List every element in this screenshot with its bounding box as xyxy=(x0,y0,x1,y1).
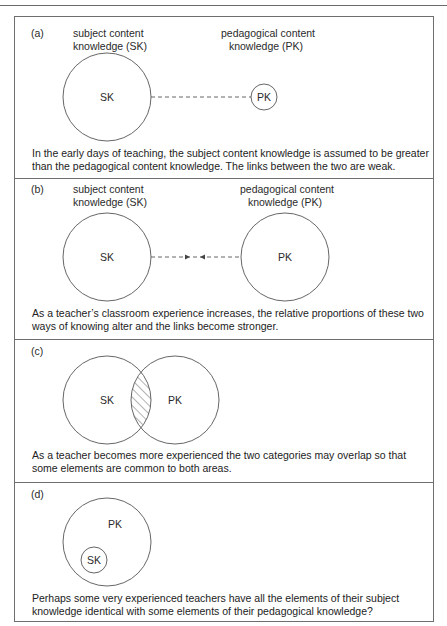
panel-d: (d) PK SK Perhaps some very experienced … xyxy=(15,482,433,623)
panel-a: (a) subject content knowledge (SK) pedag… xyxy=(15,17,433,178)
pk-circle: PK xyxy=(63,498,151,586)
panel-d-caption: Perhaps some very experienced teachers h… xyxy=(32,592,432,618)
panel-c-caption: As a teacher becomes more experienced th… xyxy=(32,449,432,475)
sk-label: SK xyxy=(100,251,114,263)
panel-a-caption: In the early days of teaching, the subje… xyxy=(32,147,432,173)
pk-label: PK xyxy=(257,91,271,103)
pk-circle: PK xyxy=(241,213,329,301)
panel-b-caption: As a teacher’s classroom experience incr… xyxy=(32,307,432,333)
sk-circle: SK xyxy=(81,547,107,573)
arrow-right-icon xyxy=(185,255,190,260)
panel-c: (c) SK PK As a teacher becomes more expe… xyxy=(15,339,433,482)
sk-label: SK xyxy=(87,554,101,566)
page-header-rule xyxy=(0,5,447,6)
pk-circle: PK xyxy=(251,84,277,110)
pk-label: PK xyxy=(108,518,122,530)
pk-label: PK xyxy=(168,394,182,406)
arrow-left-icon xyxy=(200,255,205,260)
sk-label: SK xyxy=(100,394,114,406)
sk-circle: SK xyxy=(63,53,151,141)
sk-circle: SK xyxy=(63,213,151,301)
figure-frame: (a) subject content knowledge (SK) pedag… xyxy=(14,16,434,622)
sk-label: SK xyxy=(100,91,114,103)
pk-label: PK xyxy=(278,251,292,263)
panel-b: (b) subject content knowledge (SK) pedag… xyxy=(15,178,433,339)
